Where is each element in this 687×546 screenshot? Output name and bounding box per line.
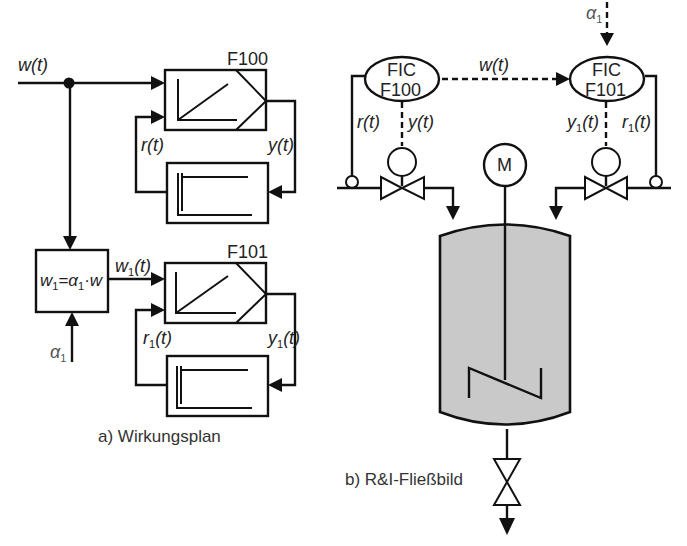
label-f101: F101 [227,243,268,261]
arrow-icon [151,76,165,90]
arrow-icon [268,185,282,199]
valve-actuator-left [388,148,416,176]
y1-suffix: (t) [283,328,300,348]
label-b-y-t: y(t) [408,113,434,131]
label-setpoint-w-t: w(t) [479,56,509,74]
y1-sub: 1 [277,338,283,350]
label-w-t: w(t) [18,56,48,74]
flow-sensor-left [346,176,358,188]
motor-label: M [497,156,512,174]
arrow-icon [151,110,165,124]
alpha-base: α [586,3,596,23]
r1-sub: 1 [149,338,155,350]
pipe-left-feed [424,188,453,208]
r1-sub: 1 [628,122,634,134]
label-w1-t: w1(t) [115,257,151,275]
ratio-formula: w1=α1·w [40,272,102,289]
label-alpha1-top: α1 [586,4,602,22]
fic-f101-line1: FIC [592,61,621,79]
alpha-base: α [50,342,60,362]
label-r-t: r(t) [141,136,164,154]
label-y-t: y(t) [268,136,294,154]
fic-f100-line1: FIC [387,61,416,79]
diagram-drawing [0,0,687,546]
r1-suffix: (t) [155,328,172,348]
label-b-r1-t: r1(t) [622,113,651,131]
formula-alpha: α [68,271,78,290]
control-valve-right [606,177,627,199]
arrow-icon [556,72,570,86]
control-valve-right [585,177,606,199]
formula-lhs: w [40,271,52,290]
y1-base: y [268,328,277,348]
outlet-valve [494,482,520,505]
arrow-icon [151,303,165,317]
valve-actuator-right [592,148,620,176]
formula-lhs-sub: 1 [52,280,58,292]
w1-suffix: (t) [134,256,151,276]
label-y1-t: y1(t) [268,329,300,347]
arrow-icon [600,33,614,46]
fic-f101-line2: F101 [585,81,626,99]
flow-sensor-right [650,176,662,188]
caption-wirkungsplan: a) Wirkungsplan [98,428,221,445]
label-b-r-t: r(t) [357,113,380,131]
label-alpha1: α1 [50,343,66,361]
arrow-icon [446,206,460,220]
w1-sub: 1 [128,266,134,278]
control-valve-left [381,177,402,199]
alpha-sub: 1 [596,13,602,25]
pipe-right-feed [556,188,585,208]
w1-base: w [115,256,128,276]
y1-sub: 1 [576,122,582,134]
y1-suffix: (t) [582,112,599,132]
fic-f100-line2: F100 [380,81,421,99]
caption-ri-fliessbild: b) R&I-Fließbild [345,471,463,488]
control-valve-left [402,177,424,199]
formula-rhs: w [90,271,102,290]
alpha-sub: 1 [60,352,66,364]
label-f100: F100 [227,50,268,68]
arrow-icon [63,236,77,250]
arrow-icon [65,312,79,326]
r1-suffix: (t) [634,112,651,132]
arrow-icon [268,378,282,392]
y1-base: y [567,112,576,132]
diagram-canvas: w(t) F100 r(t) y(t) w1=α1·w w1(t) α1 F10… [0,0,687,546]
arrow-icon [549,206,563,220]
formula-eq: = [58,271,68,290]
label-r1-t: r1(t) [143,329,172,347]
outlet-valve [494,459,520,482]
formula-alpha-sub: 1 [78,280,84,292]
arrow-icon [151,272,165,286]
arrow-icon [499,518,515,535]
label-b-y1-t: y1(t) [567,113,599,131]
